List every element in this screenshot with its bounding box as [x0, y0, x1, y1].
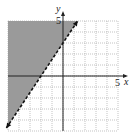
x-axis-label: x [123, 76, 129, 87]
x-tick-label-5: 5 [115, 77, 120, 88]
y-tick-label-5: 5 [56, 15, 61, 26]
inequality-graph: y 5 5 x [0, 0, 132, 134]
y-axis-label: y [55, 3, 61, 14]
